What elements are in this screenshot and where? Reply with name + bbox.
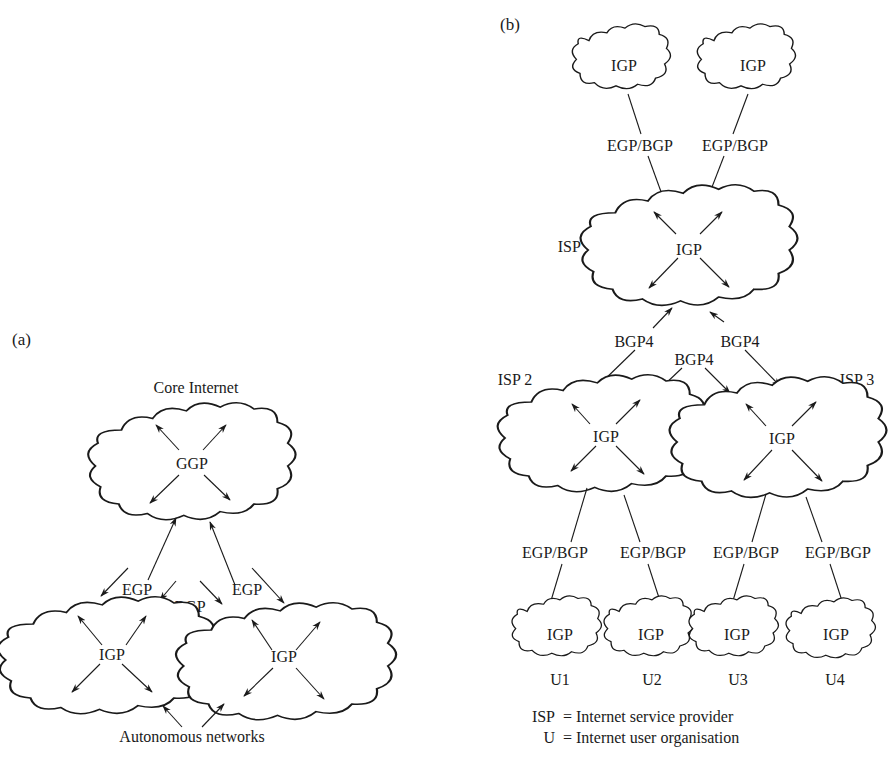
svg-text:IGP: IGP	[593, 428, 619, 445]
legend-def-isp: = Internet service provider	[563, 708, 734, 726]
svg-text:IGP: IGP	[724, 626, 750, 643]
core-internet-title: Core Internet	[154, 379, 239, 396]
svg-text:IGP: IGP	[823, 626, 849, 643]
panel-a-tag: (a)	[12, 330, 31, 349]
user-cloud-u4: IGP	[786, 598, 875, 658]
bgp4-left-label: BGP4	[614, 333, 653, 350]
user-link-label-4: EGP/BGP	[805, 544, 871, 561]
isp3-cloud: IGP	[670, 377, 887, 498]
user-label-u3: U3	[728, 671, 748, 688]
core-protocol-label: GGP	[176, 455, 208, 472]
user-label-u4: U4	[825, 671, 845, 688]
svg-text:IGP: IGP	[547, 626, 573, 643]
svg-text:IGP: IGP	[740, 57, 766, 74]
legend-def-u: = Internet user organisation	[563, 729, 739, 747]
svg-text:IGP: IGP	[638, 626, 664, 643]
core-internet-cloud: GGP	[88, 403, 295, 520]
svg-text:IGP: IGP	[769, 430, 795, 447]
user-link-label-3: EGP/BGP	[713, 544, 779, 561]
svg-text:IGP: IGP	[611, 57, 637, 74]
isp2-label: ISP 2	[498, 371, 533, 388]
user-label-u1: U1	[550, 671, 570, 688]
right-network-protocol: IGP	[271, 648, 297, 665]
user-cloud-u3: IGP	[689, 596, 778, 656]
egp-right-label: EGP	[232, 581, 262, 598]
top-link-label-1: EGP/BGP	[607, 137, 673, 154]
top-igp-cloud-1: IGP	[572, 24, 670, 89]
user-label-u2: U2	[642, 671, 662, 688]
legend-abbr-u: U	[543, 729, 555, 746]
left-network-protocol: IGP	[99, 646, 125, 663]
legend-abbr-isp: ISP	[532, 708, 555, 725]
network-diagram: (a) Core Internet GGP EGP EGP BGP IGP IG…	[0, 0, 892, 774]
egp-left-label: EGP	[122, 581, 152, 598]
top-link-label-2: EGP/BGP	[702, 137, 768, 154]
autonomous-networks-caption: Autonomous networks	[119, 728, 264, 745]
isp1-cloud: IGP	[581, 185, 798, 306]
user-cloud-u2: IGP	[604, 596, 693, 656]
svg-text:IGP: IGP	[676, 241, 702, 258]
user-cloud-u1: IGP	[512, 596, 601, 656]
panel-b-tag: (b)	[500, 15, 520, 34]
bgp4-right-label: BGP4	[720, 333, 759, 350]
legend: ISP = Internet service provider U = Inte…	[532, 708, 739, 747]
user-link-label-2: EGP/BGP	[620, 544, 686, 561]
user-link-label-1: EGP/BGP	[522, 544, 588, 561]
top-igp-cloud-2: IGP	[697, 24, 795, 89]
bgp4-middle-label: BGP4	[674, 351, 713, 368]
